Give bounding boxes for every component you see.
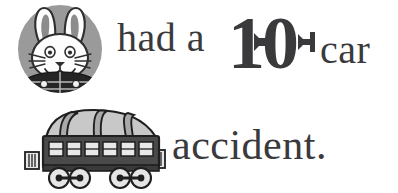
bunny-right-pupil xyxy=(68,51,72,55)
page-root: had a 1 0 car xyxy=(0,0,398,193)
text-had-a: had a xyxy=(117,18,205,58)
sentence-line-2: accident. xyxy=(0,98,398,193)
text-car: car xyxy=(320,30,370,70)
text-accident: accident. xyxy=(172,124,327,166)
big-number-ten: 1 0 xyxy=(226,6,314,72)
train-left-coupler xyxy=(25,152,39,169)
sentence-line-1: had a 1 0 car xyxy=(0,0,398,98)
bunny-head-illustration xyxy=(14,4,106,94)
coupler-flange-right xyxy=(298,32,315,52)
bunny-left-pupil xyxy=(48,51,52,55)
train-car-illustration xyxy=(22,102,170,192)
bunny-collar xyxy=(28,72,92,96)
